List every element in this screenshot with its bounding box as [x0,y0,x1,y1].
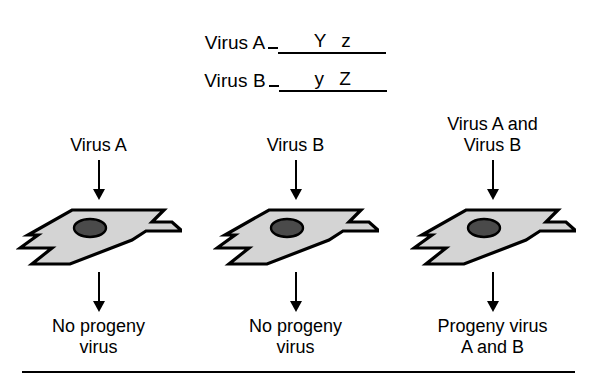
column-3-cell-wrap [408,204,578,270]
arrow-head [93,189,105,200]
nucleus-icon [74,219,106,237]
arrow-shaft [98,160,100,192]
down-arrow-icon [92,160,106,200]
arrow-shaft [295,160,297,192]
column-2-cell-wrap [211,204,381,270]
genotype-alleles-a: Y z [309,31,356,51]
genotype-connector-dash-a [268,47,278,49]
genotype-label-virus-b: Virus B [204,71,266,92]
arrow-head [290,189,302,200]
arrow-head [93,301,105,312]
column-3-output-label: Progeny virus A and B [437,316,547,358]
column-1-cell-wrap [14,204,184,270]
column-2-output-label: No progeny virus [249,316,342,358]
experiment-column-3: Virus A and Virus B Progeny virus A and … [394,112,591,360]
nucleus-icon [468,219,500,237]
bottom-divider-rule [22,371,575,373]
arrow-head [487,189,499,200]
genotype-fraction-a: Y z [278,31,386,54]
down-arrow-icon [289,160,303,200]
genotype-label-virus-a: Virus A [205,33,266,54]
genotype-row-virus-b: Virus B y Z [204,58,387,92]
host-cell-icon [410,206,576,268]
arrow-shaft [492,160,494,192]
genotype-bar-a [278,52,386,54]
down-arrow-icon [486,272,500,312]
arrow-shaft [98,272,100,304]
down-arrow-icon [486,160,500,200]
arrow-shaft [492,272,494,304]
genotype-row-virus-a: Virus A Y z [205,20,387,54]
arrow-head [487,301,499,312]
genotype-bar-b [279,90,387,92]
figure-canvas: Virus A Y z Virus B y Z Virus A [0,0,591,385]
column-1-output-label: No progeny virus [52,316,145,358]
down-arrow-icon [92,272,106,312]
genotype-connector-dash-b [269,85,279,87]
experiment-columns: Virus A No progeny virus Virus B [0,112,591,360]
nucleus-icon [271,219,303,237]
genotype-alleles-b: y Z [310,69,356,89]
column-3-input-label: Virus A and Virus B [447,112,538,156]
genotype-header: Virus A Y z Virus B y Z [0,20,591,92]
host-cell-icon [213,206,379,268]
genotype-fraction-b: y Z [279,69,387,92]
host-cell-icon [16,206,182,268]
arrow-head [290,301,302,312]
column-1-input-label: Virus A [70,112,127,156]
experiment-column-1: Virus A No progeny virus [0,112,197,360]
down-arrow-icon [289,272,303,312]
column-2-input-label: Virus B [267,112,325,156]
arrow-shaft [295,272,297,304]
experiment-column-2: Virus B No progeny virus [197,112,394,360]
